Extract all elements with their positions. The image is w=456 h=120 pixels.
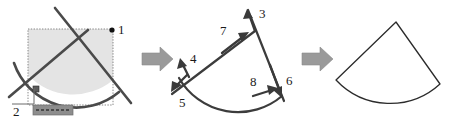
marker-label-5: 5: [179, 95, 186, 110]
marker-label-3: 3: [259, 6, 266, 21]
result-stage-drawing: [320, 0, 456, 120]
marker-label-7: 7: [220, 23, 227, 38]
direction-arrow-3[interactable]: [243, 9, 255, 31]
direction-arrow-6[interactable]: [270, 65, 282, 98]
result-sector-outline[interactable]: [336, 22, 440, 103]
marker-label-6: 6: [286, 73, 293, 88]
panel-direction-stage: 3 4 5 6 7: [160, 0, 310, 120]
status-chip: [33, 105, 73, 115]
edge-arc[interactable]: [179, 78, 282, 112]
direction-arrow-8[interactable]: [253, 85, 278, 96]
panel-selection-stage: 1 2: [0, 0, 150, 120]
marker-label-4: 4: [190, 51, 197, 66]
direction-stage-drawing: 3 4 5 6 7: [160, 0, 310, 120]
marker-label-8: 8: [250, 74, 257, 89]
pick-point-dot-1[interactable]: [109, 27, 114, 32]
figure-root: 1 2: [0, 0, 456, 120]
shaded-sector-fill: [28, 29, 113, 95]
selection-stage-drawing: 1 2: [0, 0, 150, 120]
panel-result-stage: [320, 0, 456, 120]
marker-label-2: 2: [13, 104, 20, 119]
marker-label-1: 1: [118, 22, 125, 37]
